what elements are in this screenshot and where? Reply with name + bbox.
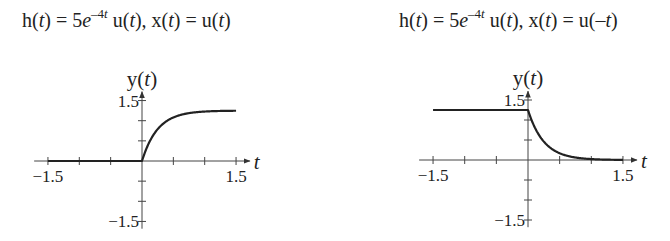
chart-right: −1.51.51.5−1.5y(t)t [418,66,648,230]
y-tick-label-min: −1.5 [494,211,525,230]
y-tick-label-max: 1.5 [118,92,139,111]
charts-canvas: −1.51.51.5−1.5y(t)t −1.51.51.5−1.5y(t)t [0,0,670,241]
x-tick-label-max: 1.5 [612,166,633,185]
x-axis-label: t [254,150,261,174]
x-tick-label-max: 1.5 [225,167,246,186]
y-axis-label: y(t) [513,66,543,90]
y-tick-label-max: 1.5 [504,91,525,110]
y-axis-label: y(t) [127,67,157,91]
chart-left: −1.51.51.5−1.5y(t)t [33,67,261,232]
x-tick-label-min: −1.5 [33,167,64,186]
x-axis-label: t [641,149,648,173]
y-tick-label-min: −1.5 [108,212,139,231]
x-tick-label-min: −1.5 [418,166,449,185]
